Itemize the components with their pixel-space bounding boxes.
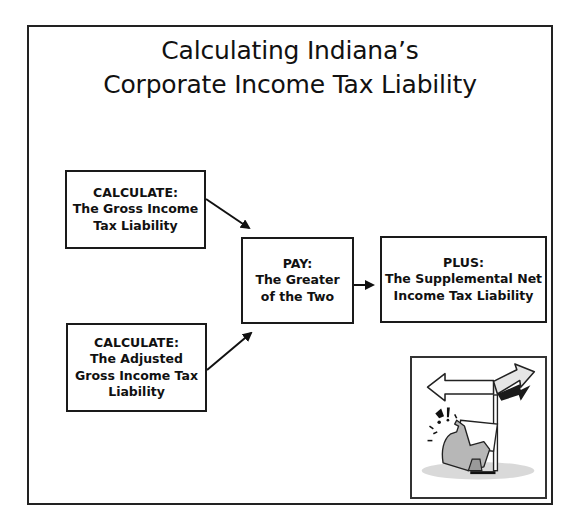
box-text: The Supplemental Net: [385, 271, 542, 288]
box-text: The Gross Income: [73, 201, 199, 218]
title-line-1: Calculating Indiana’s: [0, 34, 580, 68]
box-pay-greater-of-two: PAY: The Greater of the Two: [241, 237, 354, 324]
page-title: Calculating Indiana’s Corporate Income T…: [0, 34, 580, 102]
box-label: CALCULATE:: [94, 335, 179, 352]
box-label: PLUS:: [443, 255, 484, 272]
box-text: Gross Income Tax: [75, 368, 198, 385]
box-text: Income Tax Liability: [394, 288, 534, 305]
box-label: CALCULATE:: [93, 185, 178, 202]
box-label: PAY:: [283, 256, 312, 273]
confused-figure-at-signpost-icon: [412, 358, 545, 497]
box-plus-supplemental-net-income-tax: PLUS: The Supplemental Net Income Tax Li…: [380, 236, 547, 323]
box-text: of the Two: [261, 289, 334, 306]
box-text: Liability: [108, 384, 165, 401]
title-line-2: Corporate Income Tax Liability: [0, 68, 580, 102]
box-calculate-gross-income-tax: CALCULATE: The Gross Income Tax Liabilit…: [65, 170, 206, 249]
illustration-frame: [410, 356, 547, 499]
box-text: The Adjusted: [90, 351, 183, 368]
box-text: Tax Liability: [93, 218, 177, 235]
box-text: The Greater: [255, 272, 339, 289]
box-calculate-adjusted-gross-income-tax: CALCULATE: The Adjusted Gross Income Tax…: [66, 323, 207, 412]
